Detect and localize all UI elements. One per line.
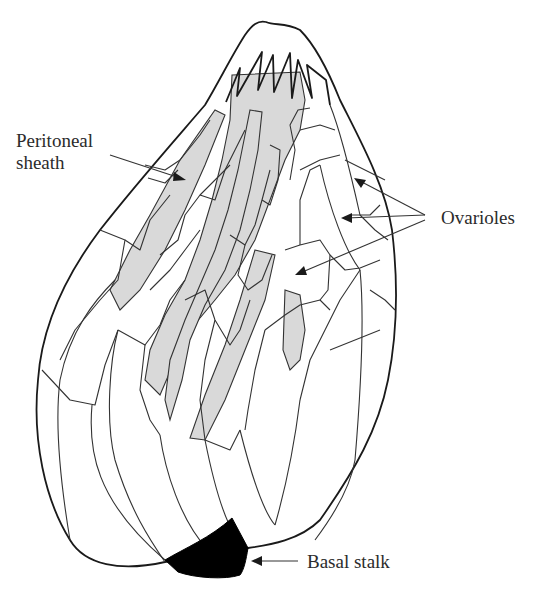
label-peritoneal-sheath: Peritoneal sheath (16, 130, 93, 174)
label-peritoneal-line1: Peritoneal (16, 130, 93, 152)
basal-stalk-leader (251, 556, 298, 566)
label-peritoneal-line2: sheath (16, 152, 93, 174)
label-ovarioles: Ovarioles (441, 207, 515, 229)
ovary-diagram (0, 0, 541, 594)
peritoneal-sheath-regions (110, 72, 305, 440)
ovarioles-leaders (295, 178, 425, 275)
peritoneal-sheath-leader (110, 155, 186, 181)
basal-stalk (165, 518, 248, 578)
label-basal-stalk: Basal stalk (307, 551, 390, 573)
